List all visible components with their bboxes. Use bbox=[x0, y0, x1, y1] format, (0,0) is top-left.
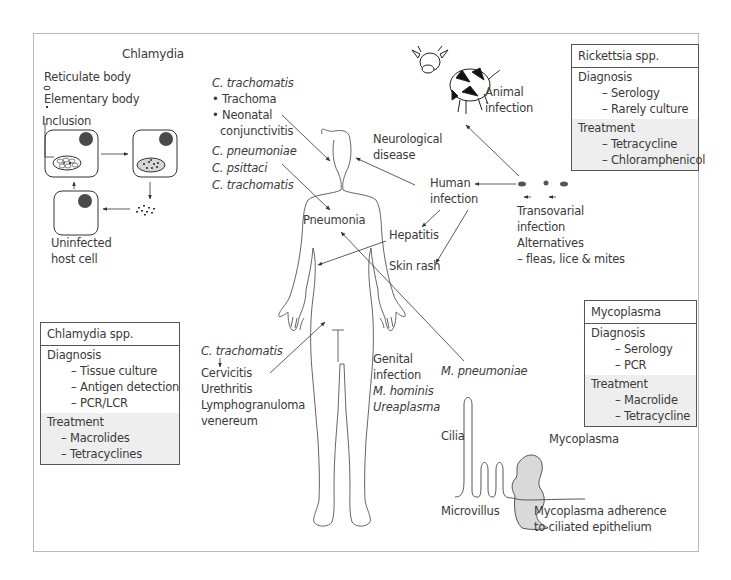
pneumonia-source-3: C. trachomatis bbox=[212, 178, 293, 194]
vector-line-2: infection bbox=[517, 220, 565, 236]
rickettsia-diagnosis-1: – Serology bbox=[578, 85, 692, 101]
chlamydia-box-title: Chlamydia spp. bbox=[41, 323, 179, 346]
released-elementary-bodies-icon bbox=[136, 205, 155, 216]
inclusion-label: Inclusion bbox=[42, 114, 91, 130]
human-infection-label-2: infection bbox=[430, 192, 478, 208]
vector-line-4: – fleas, lice & mites bbox=[517, 252, 625, 268]
rickettsia-treatment-label: Treatment bbox=[578, 120, 692, 136]
vector-line-1: Transovarial bbox=[517, 204, 584, 220]
rickettsia-box-title: Rickettsia spp. bbox=[572, 45, 698, 68]
mycoplasma-label: Mycoplasma bbox=[549, 432, 619, 448]
genital-myco-line-2: infection bbox=[373, 368, 421, 384]
eye-organism-label: C. trachomatis bbox=[212, 76, 293, 92]
mycoplasma-treatment-1: – Macrolide bbox=[591, 392, 690, 408]
vector-line-3: Alternatives bbox=[517, 236, 584, 252]
mycoplasma-box-title: Mycoplasma bbox=[585, 301, 696, 324]
reticulate-body-label: Reticulate body bbox=[44, 70, 131, 86]
uninfected-label-2: host cell bbox=[51, 252, 97, 268]
genital-myco-ureaplasma: Ureaplasma bbox=[373, 400, 440, 416]
mycoplasma-treatment-label: Treatment bbox=[591, 376, 690, 392]
eye-item-conjunctivitis: conjunctivitis bbox=[220, 124, 293, 140]
uninfected-cell-icon bbox=[54, 191, 98, 235]
human-body-outline bbox=[279, 129, 406, 526]
eye-item-trachoma: • Trachoma bbox=[212, 92, 276, 108]
infected-cell-early-icon bbox=[45, 123, 98, 177]
human-infection-label-1: Human bbox=[430, 176, 470, 192]
pneumonia-source-2: C. psittaci bbox=[212, 161, 267, 177]
genital-ct-lymphogranuloma: Lymphogranuloma bbox=[201, 398, 305, 414]
chlamydia-treatment-2: – Tetracyclines bbox=[47, 446, 173, 462]
neurological-label-2: disease bbox=[373, 148, 415, 164]
genital-ct-urethritis: Urethritis bbox=[201, 382, 252, 398]
infected-cell-late-icon bbox=[133, 130, 177, 177]
elementary-body-label: Elementary body bbox=[44, 92, 139, 108]
chlamydia-diagnosis-3: – PCR/LCR bbox=[47, 395, 173, 411]
rickettsia-diagnosis-label: Diagnosis bbox=[578, 69, 692, 85]
mycoplasma-diagnosis-2: – PCR bbox=[591, 357, 690, 373]
rickettsia-treatment-1: – Tetracycline bbox=[578, 136, 692, 152]
chlamydia-title: Chlamydia bbox=[122, 47, 184, 63]
genital-ct-cervicitis: Cervicitis bbox=[201, 366, 252, 382]
mycoplasma-diagnosis-1: – Serology bbox=[591, 341, 690, 357]
cilia-label: Cilia bbox=[441, 429, 465, 445]
chlamydia-diagnosis-1: – Tissue culture bbox=[47, 363, 173, 379]
reticulate-body-icon bbox=[44, 86, 50, 90]
m-pneumoniae-label: M. pneumoniae bbox=[441, 364, 527, 380]
genital-myco-line-1: Genital bbox=[373, 352, 413, 368]
adherence-caption-2: to ciliated epithelium bbox=[534, 520, 652, 536]
microvillus-label: Microvillus bbox=[441, 504, 499, 520]
chlamydia-box: Chlamydia spp. Diagnosis – Tissue cultur… bbox=[40, 322, 180, 465]
rickettsia-box: Rickettsia spp. Diagnosis – Serology – R… bbox=[571, 44, 699, 171]
chlamydia-diagnosis-label: Diagnosis bbox=[47, 347, 173, 363]
rickettsia-diagnosis-2: – Rarely culture bbox=[578, 101, 692, 117]
neurological-label-1: Neurological bbox=[373, 132, 442, 148]
animal-infection-label-2: infection bbox=[485, 101, 533, 117]
genital-ct-venereum: venereum bbox=[201, 414, 258, 430]
mycoplasma-box: Mycoplasma Diagnosis – Serology – PCR Tr… bbox=[584, 300, 697, 427]
adherence-caption-1: Mycoplasma adherence bbox=[534, 504, 666, 520]
uninfected-label-1: Uninfected bbox=[51, 236, 112, 252]
chlamydia-treatment-1: – Macrolides bbox=[47, 430, 173, 446]
pneumonia-label: Pneumonia bbox=[303, 213, 365, 229]
rickettsia-treatment-2: – Chloramphenicol bbox=[578, 152, 692, 168]
pneumonia-source-1: C. pneumoniae bbox=[212, 144, 297, 160]
genital-myco-hominis: M. hominis bbox=[373, 384, 433, 400]
mycoplasma-diagnosis-label: Diagnosis bbox=[591, 325, 690, 341]
chlamydia-diagnosis-2: – Antigen detection bbox=[47, 379, 173, 395]
skin-rash-label: Skin rash bbox=[389, 259, 440, 275]
animal-infection-label-1: Animal bbox=[485, 85, 524, 101]
genital-ct-organism: C. trachomatis bbox=[201, 344, 282, 360]
insect-vectors-icon bbox=[518, 181, 568, 187]
eye-item-neonatal: • Neonatal bbox=[212, 108, 272, 124]
chlamydia-treatment-label: Treatment bbox=[47, 414, 173, 430]
mycoplasma-treatment-2: – Tetracycline bbox=[591, 408, 690, 424]
hepatitis-label: Hepatitis bbox=[389, 228, 439, 244]
